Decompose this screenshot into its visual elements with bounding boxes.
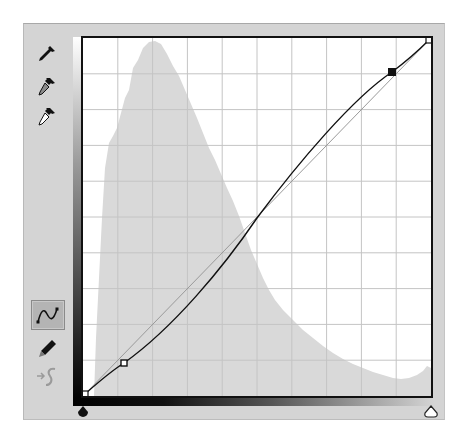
gray-point-eyedropper[interactable] <box>33 73 61 99</box>
curve-edit-points-button[interactable] <box>31 300 65 330</box>
white-point-eyedropper[interactable] <box>33 103 61 129</box>
curve-point-highlight-selected[interactable] <box>388 68 396 76</box>
smooth-curve-button[interactable] <box>33 364 61 390</box>
pencil-icon <box>36 338 58 360</box>
eyedropper-black-icon <box>36 43 58 65</box>
curve-point-shadow[interactable] <box>121 360 127 366</box>
pencil-draw-button[interactable] <box>33 336 61 362</box>
curve-icon <box>34 304 62 326</box>
curve-point-white[interactable] <box>426 38 431 43</box>
white-point-slider[interactable] <box>423 405 439 419</box>
input-gradient-bar <box>73 397 434 406</box>
smooth-icon <box>35 365 59 389</box>
eyedropper-gray-icon <box>36 75 58 97</box>
histogram <box>94 41 431 396</box>
curve-point-black[interactable] <box>83 391 88 396</box>
black-point-eyedropper[interactable] <box>33 41 61 67</box>
black-point-slider[interactable] <box>76 405 90 419</box>
curves-graph[interactable] <box>81 36 433 398</box>
eyedropper-white-icon <box>36 105 58 127</box>
output-gradient-bar <box>73 37 81 399</box>
